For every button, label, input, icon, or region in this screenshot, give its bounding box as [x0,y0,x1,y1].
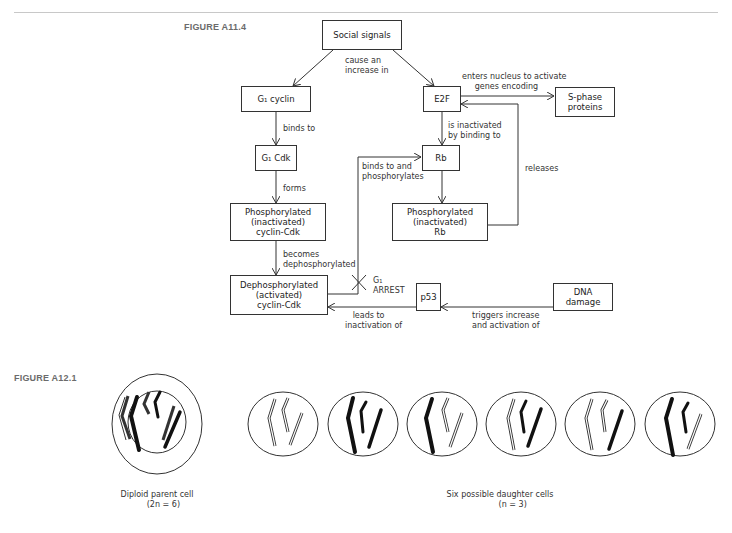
box-text: Phosphorylated (inactivated) Rb [407,207,473,237]
daughter-cell-6 [645,392,715,456]
box-phos-rb: Phosphorylated (inactivated) Rb [392,203,488,241]
box-e2f: E2F [423,86,461,112]
box-text: p53 [420,292,436,302]
box-text: E2F [434,94,450,104]
box-dna-damage: DNA damage [553,283,613,311]
daughter-cell-2 [328,392,398,456]
box-text: S-phase proteins [568,92,603,112]
label-is-inactivated: is inactivated by binding to [448,121,502,141]
box-text: Dephosphorylated (activated) cyclin-Cdk [240,280,318,310]
label-leads-to: leads to inactivation of [345,311,402,331]
box-text: Phosphorylated (inactivated) cyclin-Cdk [245,207,311,237]
daughter-cell-4 [486,392,556,456]
caption-daughter-cells: Six possible daughter cells (n = 3) [420,490,580,510]
box-rb: Rb [422,145,460,171]
label-becomes-dephos: becomes dephosphorylated [283,250,356,270]
label-binds-phosphorylates: binds to and phosphorylates [362,162,424,182]
box-g1-cdk: G₁ Cdk [255,145,297,171]
daughter-cell-3 [407,392,477,456]
box-text: Social signals [333,30,390,40]
parent-cell [112,374,202,474]
label-g1-arrest: G₁ ARREST [373,276,405,296]
box-text: G₁ cyclin [257,94,294,104]
box-dephos-cyclin-cdk: Dephosphorylated (activated) cyclin-Cdk [230,275,328,315]
label-binds-to: binds to [283,124,315,134]
label-enters-nucleus: enters nucleus to activate genes encodin… [462,72,566,92]
box-p53: p53 [416,283,441,311]
caption-parent-cell: Diploid parent cell (2n = 6) [110,490,204,510]
label-forms: forms [283,184,306,194]
daughter-cell-5 [565,392,635,456]
box-social-signals: Social signals [322,20,402,50]
diagram-connectors [0,0,732,533]
label-triggers: triggers increase and activation of [472,311,539,331]
box-text: G₁ Cdk [262,153,291,163]
label-cause-increase: cause an increase in [345,56,389,76]
box-g1-cyclin: G₁ cyclin [241,86,311,112]
box-text: DNA damage [566,287,601,307]
box-text: Rb [435,153,446,163]
daughter-cell-1 [248,392,318,456]
box-phos-cyclin-cdk: Phosphorylated (inactivated) cyclin-Cdk [230,203,326,241]
label-releases: releases [525,164,558,174]
